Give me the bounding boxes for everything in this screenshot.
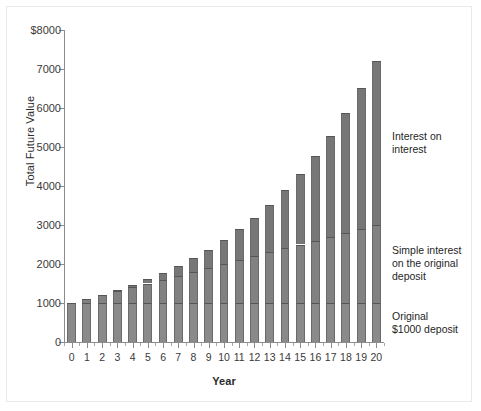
bar-segment (174, 266, 183, 276)
bar (250, 30, 259, 342)
bar-segment (220, 264, 229, 303)
bar-segment (296, 303, 305, 342)
bar-segment (82, 299, 91, 303)
x-tick (331, 343, 332, 348)
x-tick-minor (155, 343, 156, 346)
x-tick-minor (232, 343, 233, 346)
bar-segment (357, 88, 366, 229)
bar-segment (372, 61, 381, 225)
annotation-interest-on-interest: Interest oninterest (392, 130, 478, 156)
bar (326, 30, 335, 342)
x-tick-minor (293, 343, 294, 346)
x-tick (224, 343, 225, 348)
bar-segment (113, 303, 122, 342)
bar-segment (357, 229, 366, 303)
y-tick-label: 3000 (1, 225, 61, 226)
x-tick (346, 343, 347, 348)
bar-segment (265, 252, 274, 303)
bar-segment (281, 190, 290, 248)
x-tick (87, 343, 88, 348)
y-tick-label: $8000 (1, 30, 61, 31)
bar (143, 30, 152, 342)
x-tick (148, 343, 149, 348)
annotation-original-deposit: Original$1000 deposit (392, 310, 478, 336)
x-tick (254, 343, 255, 348)
bar-segment (372, 303, 381, 342)
chart-figure: Total Future Value Year 0100020003000400… (6, 6, 472, 402)
bar-segment (113, 290, 122, 291)
bar (357, 30, 366, 342)
bar-segment (143, 303, 152, 342)
bar-segment (82, 303, 91, 342)
x-tick (270, 343, 271, 348)
bar-segment (174, 303, 183, 342)
y-tick-label: 0 (1, 342, 61, 343)
bar-segment (265, 303, 274, 342)
x-tick (117, 343, 118, 348)
x-tick (133, 343, 134, 348)
bar-segment (250, 218, 259, 257)
bar-segment (326, 237, 335, 303)
bar (128, 30, 137, 342)
x-tick-minor (79, 343, 80, 346)
x-tick-minor (201, 343, 202, 346)
bar (159, 30, 168, 342)
bar-segment (204, 303, 213, 342)
x-tick (163, 343, 164, 348)
y-tick-label: 2000 (1, 264, 61, 265)
bar-segment (311, 156, 320, 241)
x-tick (194, 343, 195, 348)
x-tick (102, 343, 103, 348)
bar-segment (281, 303, 290, 342)
x-tick (72, 343, 73, 348)
bar (174, 30, 183, 342)
plot-area: 01000200030004000500060007000$8000 01234… (64, 30, 384, 342)
x-tick-minor (262, 343, 263, 346)
x-tick (376, 343, 377, 348)
x-tick-minor (64, 343, 65, 346)
bar-segment (296, 174, 305, 245)
bar-segment (128, 303, 137, 342)
y-tick-label: 7000 (1, 69, 61, 70)
bar-segment (98, 295, 107, 303)
bar-segment (311, 241, 320, 303)
x-tick (285, 343, 286, 348)
bar-segment (357, 303, 366, 342)
bar (296, 30, 305, 342)
bar-segment (159, 303, 168, 342)
x-tick-minor (323, 343, 324, 346)
bar (265, 30, 274, 342)
bar-segment (159, 273, 168, 280)
bar-segment (341, 303, 350, 342)
bar-segment (174, 276, 183, 303)
bar (220, 30, 229, 342)
x-tick (300, 343, 301, 348)
bar (235, 30, 244, 342)
bar (204, 30, 213, 342)
bar-segment (98, 295, 107, 296)
bar-segment (189, 258, 198, 272)
bar-segment (281, 248, 290, 303)
x-tick (239, 343, 240, 348)
bar-segment (128, 285, 137, 287)
x-tick-label: 20 (364, 351, 388, 363)
y-tick-label: 5000 (1, 147, 61, 148)
y-axis-label: Total Future Value (24, 71, 36, 211)
x-tick-minor (354, 343, 355, 346)
bar-segment (113, 291, 122, 303)
bar (113, 30, 122, 342)
bar (98, 30, 107, 342)
x-tick-minor (247, 343, 248, 346)
bar-segment (296, 245, 305, 304)
bar (341, 30, 350, 342)
y-tick-label: 6000 (1, 108, 61, 109)
annotation-simple-interest: Simple intereston the originaldeposit (392, 244, 478, 283)
bar (82, 30, 91, 342)
bar-segment (265, 205, 274, 253)
bar-segment (128, 287, 137, 303)
bar-segment (189, 272, 198, 303)
x-tick-minor (140, 343, 141, 346)
bar-segment (235, 260, 244, 303)
y-tick-label: 1000 (1, 303, 61, 304)
bar-segment (143, 279, 152, 283)
